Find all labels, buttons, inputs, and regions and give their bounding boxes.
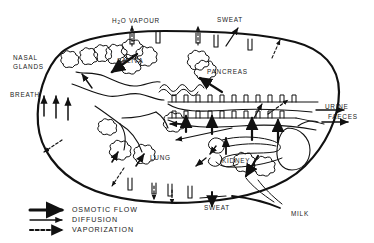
skin-pores-bottom xyxy=(128,178,192,198)
nasal-glands-line1: NASAL xyxy=(13,54,44,63)
arrow-nasal xyxy=(82,74,92,88)
arrow-pancreas xyxy=(200,78,222,92)
label-milk: MILK xyxy=(291,210,309,218)
h2o-suffix: O VAPOUR xyxy=(121,17,160,24)
label-lung: LUNG xyxy=(150,154,171,162)
label-kidney: KIDNEY xyxy=(222,157,250,165)
arrow-return-flow xyxy=(176,128,232,140)
label-urine: URINE xyxy=(325,103,349,111)
label-pancreas: PANCREAS xyxy=(207,68,248,76)
arrow-lung-1 xyxy=(112,152,118,162)
arrow-vaporization-lower-left xyxy=(112,168,124,186)
label-saliva: SALIVA xyxy=(117,57,143,65)
label-sweat-top: SWEAT xyxy=(217,16,243,24)
water-exchange-diagram xyxy=(0,0,374,243)
nasal-glands-line2: GLANDS xyxy=(13,63,44,72)
legend-label-diffusion: DIFFUSION xyxy=(72,216,118,224)
pancreatic-duct xyxy=(159,85,204,96)
legend-label-osmotic-flow: OSMOTIC FLOW xyxy=(72,206,138,214)
pancreas-cluster xyxy=(187,50,216,80)
oesophagus-airway xyxy=(72,72,164,100)
arrow-lung-2 xyxy=(136,154,144,166)
arrow-sweat-top xyxy=(226,28,238,46)
arrow-gut-secretion-2 xyxy=(254,104,262,118)
arrow-vaporization-top-3 xyxy=(272,40,280,58)
bronchial-tree xyxy=(95,106,168,152)
label-breath: BREATH xyxy=(10,91,40,99)
gut-villi-upper xyxy=(168,95,318,102)
teat xyxy=(232,196,280,208)
label-faeces: FAECES xyxy=(328,113,358,121)
legend-label-vaporization: VAPORIZATION xyxy=(72,226,134,234)
label-h2o-vapour: H2O VAPOUR xyxy=(112,17,160,25)
label-nasal-glands: NASAL GLANDS xyxy=(13,54,44,71)
bladder xyxy=(277,121,318,170)
gut-lumen xyxy=(168,104,324,130)
lung-alveoli xyxy=(98,112,185,164)
diagram-canvas: H2O VAPOUR SWEAT NASAL GLANDS BREATH SAL… xyxy=(0,0,374,243)
gut-villi-lower xyxy=(168,111,296,118)
label-sweat-bottom: SWEAT xyxy=(204,204,230,212)
arrow-kidney-in xyxy=(196,158,206,166)
